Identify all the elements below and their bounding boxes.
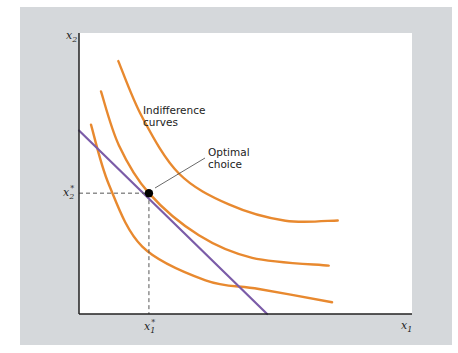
indifference-curves-label-line1: Indifference [143,104,205,116]
optimal-x1-tick-label: x1* [144,318,155,335]
x-axis-label: x1 [401,319,412,334]
y-axis-label: x2 [66,29,77,44]
indifference-curve-diagram: x2 x1 x2* x1* Indifference curves Optima… [0,0,458,353]
plot-area [79,33,412,314]
optimal-choice-label-line2: choice [208,158,242,170]
optimal-point [145,189,153,197]
indifference-curves-label-line2: curves [143,116,178,128]
optimal-choice-label-line1: Optimal [208,146,250,158]
optimal-x2-tick-label: x2* [63,184,74,201]
